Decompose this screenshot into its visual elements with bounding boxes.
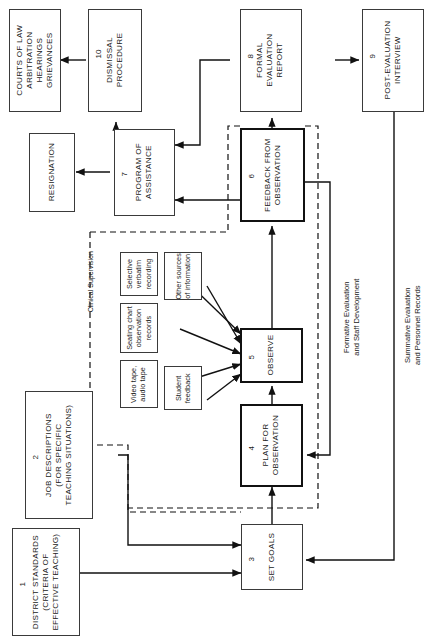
node-post-evaluation-interview[interactable]: POST-EVALUATIONINTERVIEW: [362, 9, 424, 112]
node-observe-label: OBSERVE: [266, 335, 276, 376]
node-job-descriptions-label: JOB DESCRIPTIONS(FOR SPECIFICTEACHING SI…: [44, 405, 74, 506]
node-video-tape-audio-tape[interactable]: Video tape,audio tape: [120, 360, 158, 408]
node-number-5: 5: [247, 348, 256, 360]
node-formal-evaluation-report[interactable]: FORMALEVALUATIONREPORT: [240, 9, 302, 112]
node-plan-for-observation-label: PLAN FOROBSERVATION: [261, 415, 281, 475]
edge-formal-report-to-program: [175, 60, 230, 145]
node-student-feedback-label: Studentfeedback: [174, 373, 193, 403]
node-program-of-assistance-label: PROGRAM OFASSISTANCE: [134, 143, 154, 201]
node-number-9: 9: [368, 47, 377, 59]
node-number-3: 3: [247, 550, 256, 562]
node-post-evaluation-interview-label: POST-EVALUATIONINTERVIEW: [383, 21, 403, 100]
label-formative-evaluation: Formative Evaluation and Staff Developme…: [342, 262, 363, 372]
node-number-6: 6: [247, 167, 256, 179]
node-other-sources-of-information-label: Other sourcesof information: [174, 253, 193, 299]
label-formative-line2: and Staff Development: [352, 279, 361, 356]
edge-other-sources-to-observe: [207, 286, 241, 344]
edge-job-descriptions-to-set-goals: [118, 455, 241, 545]
node-number-10: 10: [94, 47, 103, 59]
node-formal-evaluation-report-label: FORMALEVALUATIONREPORT: [256, 34, 286, 87]
node-other-sources-of-information[interactable]: Other sourcesof information: [164, 252, 202, 300]
node-number-4: 4: [247, 439, 256, 451]
node-feedback-from-observation-label: FEEDBACK FROMOBSERVATION: [262, 138, 282, 212]
node-district-standards-label: DISTRICT STANDARDS(CRITERIA OFEFFECTIVE …: [31, 534, 61, 631]
node-seating-chart-observation-records[interactable]: Seating chartobservationrecords: [120, 303, 158, 353]
node-number-8: 8: [246, 47, 255, 59]
node-dismissal-procedure[interactable]: DISMISSALPROCEDURE: [88, 9, 142, 112]
node-selective-verbatim-recording-label: Selectiveverbatimrecording: [125, 259, 153, 290]
label-summative-evaluation: Summative Evaluation and Personnel Recor…: [403, 265, 424, 385]
node-seating-chart-observation-records-label: Seating chartobservationrecords: [125, 306, 153, 350]
node-dismissal-procedure-label: DISMISSALPROCEDURE: [105, 33, 125, 87]
label-formative-line1: Formative Evaluation: [342, 282, 351, 353]
node-courts-of-law-label: COURTS OF LAWARBITRATIONHEARINGSGRIEVANC…: [15, 25, 55, 96]
label-summative-line1: Summative Evaluation: [403, 287, 412, 363]
flowchart-canvas: COURTS OF LAWARBITRATIONHEARINGSGRIEVANC…: [0, 0, 436, 640]
node-courts-of-law[interactable]: COURTS OF LAWARBITRATIONHEARINGSGRIEVANC…: [9, 9, 61, 112]
node-number-1: 1: [18, 575, 27, 587]
node-number-2: 2: [31, 448, 40, 460]
label-summative-line2: and Personnel Records: [413, 286, 422, 365]
node-selective-verbatim-recording[interactable]: Selectiveverbatimrecording: [120, 252, 158, 296]
label-clinical-supervision: Clinical Supervision: [86, 247, 95, 317]
node-set-goals-label: SET GOALS: [267, 533, 277, 581]
edge-seating-chart-to-observe: [180, 329, 241, 354]
node-number-7: 7: [120, 165, 129, 177]
node-student-feedback[interactable]: Studentfeedback: [164, 366, 202, 410]
node-resignation[interactable]: RESIGNATION: [29, 133, 75, 212]
node-video-tape-audio-tape-label: Video tape,audio tape: [130, 365, 149, 402]
node-resignation-label: RESIGNATION: [47, 143, 57, 201]
edge-student-feedback-to-observe: [207, 374, 241, 400]
